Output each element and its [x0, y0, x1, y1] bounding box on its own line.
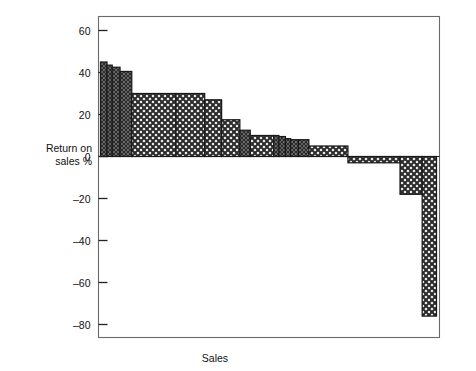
bar-rect[interactable]: [176, 94, 205, 157]
bar[interactable]: [422, 157, 436, 317]
bar[interactable]: [222, 120, 240, 157]
bar-rect[interactable]: [422, 157, 436, 317]
bar-rect[interactable]: [309, 146, 348, 157]
bar-rect[interactable]: [291, 140, 299, 157]
bar-rect[interactable]: [274, 136, 279, 157]
bar[interactable]: [250, 136, 273, 157]
bar[interactable]: [274, 136, 279, 157]
bar-rect[interactable]: [222, 120, 240, 157]
bar[interactable]: [298, 140, 308, 157]
chart-container: 6040200–20–40–60–80 Return on sales % Sa…: [0, 0, 476, 371]
plot-frame: [99, 17, 440, 338]
bar[interactable]: [240, 130, 250, 156]
profitability-bar-chart: 6040200–20–40–60–80 Return on sales % Sa…: [0, 0, 476, 371]
bar-rect[interactable]: [250, 136, 273, 157]
bar-rect[interactable]: [101, 62, 108, 157]
bar-rect[interactable]: [205, 100, 222, 157]
bar[interactable]: [112, 67, 120, 156]
bar[interactable]: [176, 94, 205, 157]
bar[interactable]: [132, 94, 176, 157]
bar[interactable]: [309, 146, 348, 157]
bar[interactable]: [205, 100, 222, 157]
y-axis-title-line1: Return on: [46, 142, 92, 154]
bar-rect[interactable]: [348, 157, 400, 163]
bar[interactable]: [279, 137, 286, 157]
bar[interactable]: [120, 71, 132, 156]
y-tick-label: 60: [79, 25, 91, 37]
bar-rect[interactable]: [279, 137, 286, 157]
y-tick-label: –80: [73, 319, 91, 331]
bar-rect[interactable]: [298, 140, 308, 157]
y-axis-title: Return on sales %: [46, 142, 92, 167]
bar-rect[interactable]: [120, 71, 132, 156]
y-tick-label: –60: [73, 277, 91, 289]
bar[interactable]: [285, 139, 290, 157]
y-axis-title-line2: sales %: [55, 155, 92, 167]
bar[interactable]: [348, 157, 400, 163]
bars-group: [101, 62, 437, 316]
bar[interactable]: [101, 62, 108, 157]
bar[interactable]: [291, 140, 299, 157]
x-axis-title: Sales: [202, 352, 228, 364]
y-tick-label: 20: [79, 109, 91, 121]
bar-rect[interactable]: [400, 157, 422, 195]
bar[interactable]: [107, 65, 112, 156]
bar[interactable]: [400, 157, 422, 195]
y-tick-label: –40: [73, 235, 91, 247]
bar-rect[interactable]: [285, 139, 290, 157]
bar-rect[interactable]: [132, 94, 176, 157]
y-tick-label: 40: [79, 67, 91, 79]
bar-rect[interactable]: [107, 65, 112, 156]
y-tick-label: –20: [73, 193, 91, 205]
bar-rect[interactable]: [240, 130, 250, 156]
bar-rect[interactable]: [112, 67, 120, 156]
